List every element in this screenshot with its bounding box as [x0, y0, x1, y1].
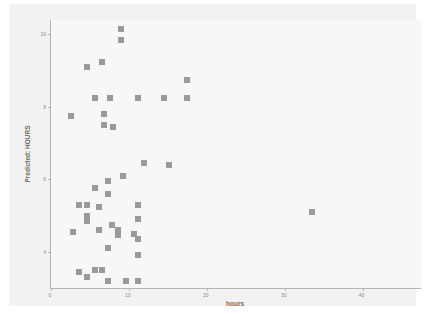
data-point: [96, 227, 102, 233]
data-point: [76, 202, 82, 208]
data-point: [84, 218, 90, 224]
data-point: [135, 252, 141, 258]
data-point: [105, 191, 111, 197]
data-point: [105, 278, 111, 284]
x-tick-mark: [129, 288, 130, 291]
y-tick-label: 8: [37, 104, 46, 110]
data-point: [70, 229, 76, 235]
data-point: [135, 236, 141, 242]
chart-canvas: Predicted: HOURS hours 01020304046810: [9, 4, 416, 306]
data-point: [161, 95, 167, 101]
data-point: [84, 64, 90, 70]
data-point: [76, 269, 82, 275]
data-point: [135, 216, 141, 222]
data-point: [110, 124, 116, 130]
data-point: [68, 113, 74, 119]
data-point: [184, 95, 190, 101]
data-point: [92, 267, 98, 273]
y-tick-label: 6: [37, 176, 46, 182]
data-point: [101, 122, 107, 128]
data-point: [141, 160, 147, 166]
y-tick-mark: [48, 34, 51, 35]
x-tick-mark: [207, 288, 208, 291]
data-point: [105, 245, 111, 251]
scatter-plot-figure: Predicted: HOURS hours 01020304046810: [0, 0, 425, 314]
y-tick-mark: [48, 179, 51, 180]
data-point: [101, 111, 107, 117]
data-point: [118, 26, 124, 32]
x-tick-label: 10: [125, 292, 131, 298]
data-point: [309, 209, 315, 215]
x-tick-mark: [363, 288, 364, 291]
y-tick-label: 4: [37, 249, 46, 255]
data-point: [184, 77, 190, 83]
data-point: [135, 278, 141, 284]
data-point: [99, 59, 105, 65]
y-tick-mark: [48, 107, 51, 108]
data-point: [109, 222, 115, 228]
data-point: [84, 274, 90, 280]
y-tick-label: 10: [37, 31, 46, 37]
x-tick-label: 30: [281, 292, 287, 298]
plot-area: [50, 20, 421, 289]
x-tick-mark: [285, 288, 286, 291]
x-tick-mark: [51, 288, 52, 291]
data-point: [107, 95, 113, 101]
x-tick-label: 20: [203, 292, 209, 298]
data-point: [166, 162, 172, 168]
y-axis-label: Predicted: HOURS: [24, 125, 31, 182]
data-point: [105, 178, 111, 184]
data-point: [99, 267, 105, 273]
data-point: [120, 173, 126, 179]
data-point: [123, 278, 129, 284]
data-point: [135, 202, 141, 208]
data-point: [92, 185, 98, 191]
x-tick-label: 0: [49, 292, 52, 298]
data-point: [92, 95, 98, 101]
data-point: [115, 232, 121, 238]
data-point: [84, 202, 90, 208]
data-point: [118, 37, 124, 43]
data-point: [135, 95, 141, 101]
x-tick-label: 40: [359, 292, 365, 298]
data-point: [96, 204, 102, 210]
y-tick-mark: [48, 252, 51, 253]
x-axis-label: hours: [226, 300, 244, 307]
